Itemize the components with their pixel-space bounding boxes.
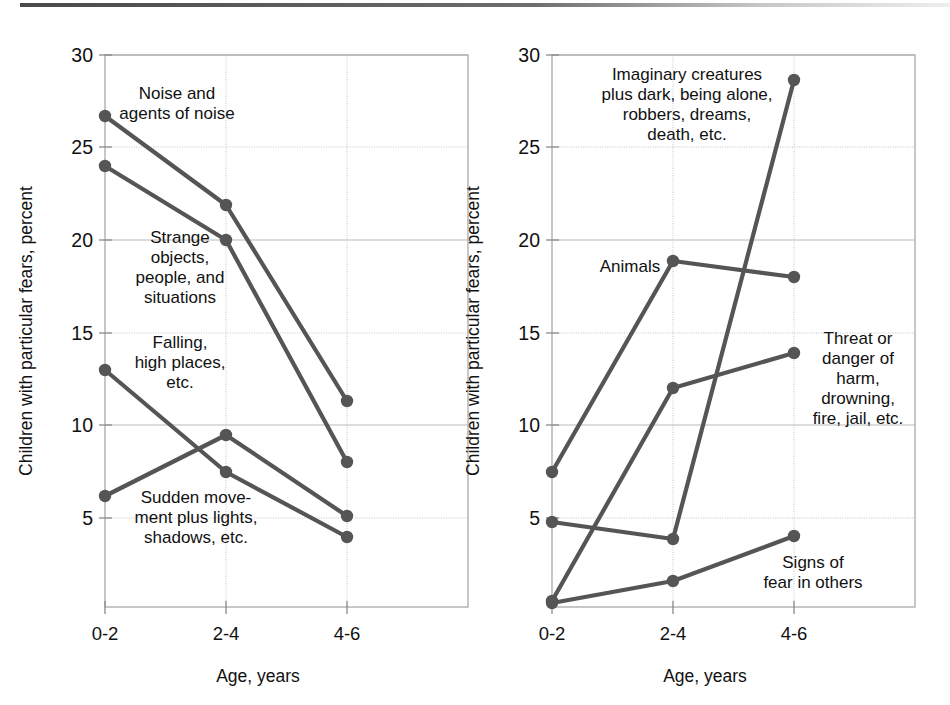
right-annot-animals-l1: Animals <box>600 257 660 276</box>
right-gridlines-horizontal <box>552 55 915 518</box>
left-annot-sudden-l2: ment plus lights, <box>135 508 258 527</box>
right-annot-threat-l4: drowning, <box>821 389 895 408</box>
right-annot-signs-l2: fear in others <box>763 573 862 592</box>
right-annot-threat-l2: danger of <box>822 349 894 368</box>
fears-by-age-figure: 30 25 20 15 10 5 0-2 2-4 4-6 Age, years … <box>0 0 950 705</box>
left-ytick-15: 15 <box>71 322 93 344</box>
right-annotation-animals: Animals <box>600 257 660 276</box>
left-annot-strange-l1: Strange <box>150 228 210 247</box>
left-annot-strange-l4: situations <box>144 288 216 307</box>
left-xtick-2-4: 2-4 <box>213 623 240 644</box>
right-ytick-10: 10 <box>518 414 540 436</box>
right-annot-signs-l1: Signs of <box>782 553 844 572</box>
left-ytick-25: 25 <box>71 136 93 158</box>
right-annot-threat-l1: Threat or <box>824 329 893 348</box>
right-xtick-0-2: 0-2 <box>539 623 566 644</box>
right-ytick-20: 20 <box>518 229 540 251</box>
left-annot-noise-l2: agents of noise <box>119 104 234 123</box>
left-annotation-sudden-movement: Sudden move- ment plus lights, shadows, … <box>135 488 258 547</box>
left-annot-noise-l1: Noise and <box>139 84 216 103</box>
right-ytick-5: 5 <box>529 507 540 529</box>
left-annot-falling-l2: high places, <box>135 353 226 372</box>
right-annotation-imaginary-creatures: Imaginary creatures plus dark, being alo… <box>601 65 772 144</box>
left-chart-panel: 30 25 20 15 10 5 0-2 2-4 4-6 Age, years … <box>16 44 468 686</box>
right-xtick-2-4: 2-4 <box>660 623 687 644</box>
left-annotation-falling: Falling, high places, etc. <box>135 333 226 392</box>
right-series-threat-danger <box>546 347 800 607</box>
left-ytick-5: 5 <box>82 507 93 529</box>
left-yaxis-title: Children with particular fears, percent <box>16 186 36 476</box>
right-annot-imaginary-l4: death, etc. <box>647 125 726 144</box>
right-annot-threat-l3: harm, <box>836 369 879 388</box>
right-xtick-4-6: 4-6 <box>781 623 808 644</box>
right-annotation-signs-of-fear: Signs of fear in others <box>763 553 862 592</box>
right-annotation-threat-danger: Threat or danger of harm, drowning, fire… <box>813 329 904 428</box>
right-ytick-15: 15 <box>518 322 540 344</box>
left-annot-strange-l3: people, and <box>136 268 225 287</box>
left-annotation-noise: Noise and agents of noise <box>119 84 234 123</box>
right-annot-imaginary-l1: Imaginary creatures <box>612 65 762 84</box>
left-ytick-30: 30 <box>71 44 93 66</box>
right-annot-imaginary-l2: plus dark, being alone, <box>601 85 772 104</box>
left-ytick-10: 10 <box>71 414 93 436</box>
left-xtick-4-6: 4-6 <box>334 623 361 644</box>
left-xaxis-title: Age, years <box>216 666 300 686</box>
left-annot-sudden-l1: Sudden move- <box>141 488 252 507</box>
left-annot-falling-l1: Falling, <box>153 333 208 352</box>
right-ytick-30: 30 <box>518 44 540 66</box>
right-ytick-25: 25 <box>518 136 540 158</box>
left-annot-strange-l2: objects, <box>151 248 210 267</box>
left-xtick-0-2: 0-2 <box>92 623 119 644</box>
left-ytick-20: 20 <box>71 229 93 251</box>
right-annot-imaginary-l3: robbers, dreams, <box>623 105 752 124</box>
right-xaxis-title: Age, years <box>663 666 747 686</box>
left-annot-sudden-l3: shadows, etc. <box>144 528 248 547</box>
right-annot-threat-l5: fire, jail, etc. <box>813 409 904 428</box>
right-yaxis-title: Children with particular fears, percent <box>463 186 483 476</box>
right-chart-panel: 30 25 20 15 10 5 0-2 2-4 4-6 Age, years … <box>463 44 915 686</box>
left-annot-falling-l3: etc. <box>166 373 193 392</box>
figure-root: 30 25 20 15 10 5 0-2 2-4 4-6 Age, years … <box>0 0 950 705</box>
